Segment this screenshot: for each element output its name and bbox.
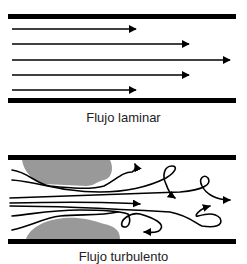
laminar-pipe-bottom-wall bbox=[8, 98, 236, 103]
turbulent-caption: Flujo turbulento bbox=[0, 249, 247, 264]
laminar-caption: Flujo laminar bbox=[0, 110, 247, 125]
top-deposit bbox=[22, 160, 112, 186]
turbulent-pipe-top-wall bbox=[8, 155, 236, 160]
turbulent-pipe-bottom-wall bbox=[8, 239, 236, 244]
laminar-pipe-top-wall bbox=[8, 14, 236, 19]
laminar-arrows bbox=[12, 29, 230, 90]
